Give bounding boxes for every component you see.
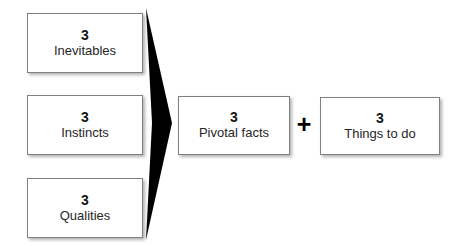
- node-label-inevitables: Inevitables: [54, 43, 116, 59]
- node-count-qualities: 3: [81, 192, 89, 208]
- node-count-pivotal-facts: 3: [230, 109, 238, 125]
- node-count-instincts: 3: [81, 109, 89, 125]
- node-box-things-to-do[interactable]: 3 Things to do: [320, 97, 440, 155]
- plus-sign-icon: +: [293, 110, 315, 138]
- node-box-qualities[interactable]: 3 Qualities: [27, 178, 143, 238]
- node-label-qualities: Qualities: [60, 208, 111, 224]
- node-label-things-to-do: Things to do: [344, 126, 416, 142]
- node-label-pivotal-facts: Pivotal facts: [199, 125, 269, 141]
- node-count-inevitables: 3: [81, 27, 89, 43]
- diagram-canvas: 3 Inevitables 3 Instincts 3 Qualities 3 …: [0, 0, 455, 246]
- node-box-pivotal-facts[interactable]: 3 Pivotal facts: [178, 96, 290, 155]
- node-box-inevitables[interactable]: 3 Inevitables: [27, 13, 143, 73]
- node-label-instincts: Instincts: [61, 125, 109, 141]
- merge-arrow-icon: [138, 0, 182, 246]
- node-box-instincts[interactable]: 3 Instincts: [27, 95, 143, 155]
- node-count-things-to-do: 3: [376, 110, 384, 126]
